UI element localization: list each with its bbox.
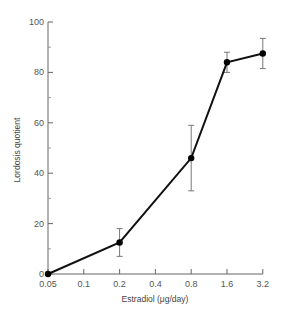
- data-series: [45, 38, 266, 277]
- x-axis-label: Estradiol (μg/day): [122, 294, 189, 304]
- y-axis: 020406080100: [29, 17, 53, 279]
- x-tick-label: 0.1: [78, 279, 91, 289]
- y-tick-label: 40: [34, 168, 44, 178]
- y-tick-label: 100: [29, 17, 44, 27]
- y-tick-label: 0: [39, 269, 44, 279]
- y-tick-label: 20: [34, 219, 44, 229]
- data-point: [116, 239, 122, 245]
- y-tick-label: 60: [34, 118, 44, 128]
- data-point: [224, 59, 230, 65]
- x-tick-label: 3.2: [257, 279, 270, 289]
- series-line: [48, 54, 263, 275]
- x-tick-label: 1.6: [221, 279, 234, 289]
- y-tick-label: 80: [34, 67, 44, 77]
- x-tick-label: 0.2: [113, 279, 126, 289]
- data-point: [45, 271, 51, 277]
- x-axis: 0.050.10.20.40.81.63.2: [39, 269, 269, 289]
- x-tick-label: 0.05: [39, 279, 57, 289]
- y-axis-label: Lordosis quotient: [12, 117, 22, 182]
- data-point: [260, 50, 266, 56]
- data-point: [188, 155, 194, 161]
- x-tick-label: 0.8: [185, 279, 198, 289]
- x-tick-label: 0.4: [149, 279, 162, 289]
- line-chart: 020406080100 0.050.10.20.40.81.63.2 Lord…: [0, 0, 281, 319]
